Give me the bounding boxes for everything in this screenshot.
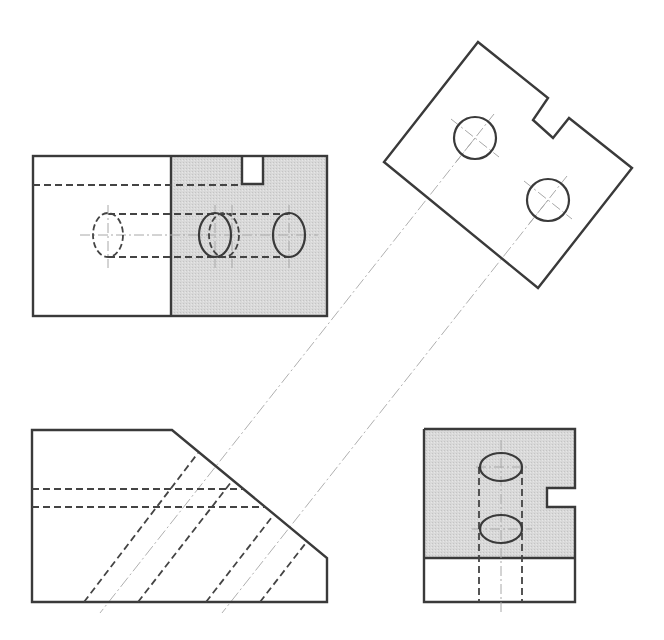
front-view-hidden-diagonal-4 [260, 544, 305, 602]
top-view-notch-fill [242, 156, 263, 184]
front-view-hidden-diagonal-2 [138, 481, 232, 602]
front-view [32, 430, 327, 602]
front-view-outline [32, 430, 327, 602]
right-view-notch-fill [547, 488, 575, 507]
right-side-view [424, 429, 575, 612]
top-view [33, 156, 327, 316]
technical-drawing [0, 0, 664, 640]
front-view-hidden-diagonal-3 [206, 517, 272, 602]
front-view-hidden-diagonal-1 [84, 453, 198, 602]
